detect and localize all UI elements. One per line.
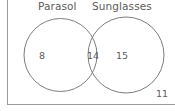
set-label-parasol: Parasol [38,1,77,12]
venn-diagram-screenshot: Parasol Sunglasses 8 14 15 11 [0,0,175,111]
set-label-sunglasses: Sunglasses [92,1,152,12]
count-outside-universe: 11 [154,89,170,99]
count-parasol-only: 8 [34,51,50,61]
count-sunglasses-only: 15 [114,51,130,61]
count-intersection: 14 [85,51,101,61]
